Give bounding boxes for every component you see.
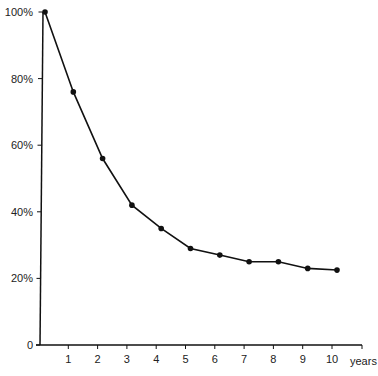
axes <box>36 12 362 349</box>
data-point <box>276 259 282 265</box>
data-point <box>188 246 194 252</box>
y-tick-label: 20% <box>11 272 33 284</box>
y-tick-label: 40% <box>11 206 33 218</box>
x-tick-label: 6 <box>212 353 218 365</box>
data-point <box>71 89 77 95</box>
x-axis-ticks: 12345678910 <box>65 345 338 365</box>
y-tick-label: 60% <box>11 139 33 151</box>
y-axis-ticks: 020%40%60%80%100% <box>5 6 43 351</box>
data-point <box>246 259 252 265</box>
data-point <box>129 202 135 208</box>
x-tick-label: 3 <box>124 353 130 365</box>
y-axis-line <box>40 12 43 345</box>
x-tick-label: 7 <box>241 353 247 365</box>
data-point <box>158 226 164 232</box>
data-point <box>305 266 311 272</box>
x-tick-label: 8 <box>270 353 276 365</box>
line-chart: 020%40%60%80%100% 12345678910 years <box>0 0 378 376</box>
x-tick-label: 10 <box>326 353 338 365</box>
x-axis-label: years <box>350 355 377 367</box>
data-markers <box>42 9 340 273</box>
data-point <box>217 252 223 258</box>
data-line <box>45 12 337 270</box>
data-point <box>100 156 106 162</box>
x-tick-label: 4 <box>153 353 159 365</box>
x-tick-label: 2 <box>95 353 101 365</box>
x-tick-label: 1 <box>65 353 71 365</box>
x-tick-label: 5 <box>182 353 188 365</box>
y-tick-label: 0 <box>27 339 33 351</box>
y-tick-label: 80% <box>11 73 33 85</box>
data-point <box>42 9 48 15</box>
x-tick-label: 9 <box>300 353 306 365</box>
y-tick-label: 100% <box>5 6 33 18</box>
data-point <box>334 267 340 273</box>
